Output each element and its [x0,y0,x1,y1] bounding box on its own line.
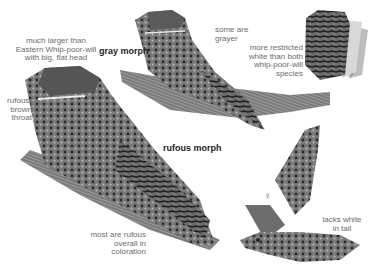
male-symbol: ♂ [347,70,355,81]
female-symbol: ♀ [264,190,272,201]
gray-note: some are grayer [215,26,248,43]
gray-morph-label: gray morph [99,46,149,56]
throat-note: rufous- brown throat [2,97,32,123]
rufous-note: most are rufous overall in coloration [78,231,146,257]
female-flying-bird [240,125,360,262]
female-tail-note: lacks white in tail [321,216,363,233]
rufous-morph-label: rufous morph [163,143,222,153]
head-size-note: much larger than Eastern Whip-poor-will … [14,37,98,63]
tail-white-note: more restricted white than both whip-poo… [245,44,303,78]
male-tail-fan [305,10,368,80]
